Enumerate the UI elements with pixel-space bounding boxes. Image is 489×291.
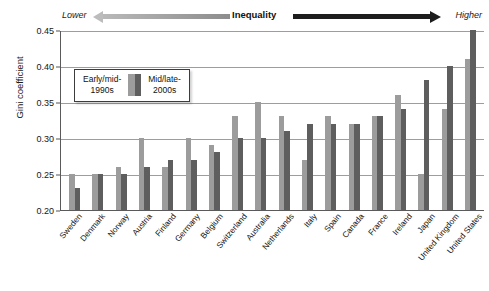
arrow-left-icon xyxy=(102,14,230,19)
x-tick-label: Canada xyxy=(341,212,366,240)
x-tick-label: Austria xyxy=(131,212,154,237)
y-tick-label: 0.45 xyxy=(36,26,54,36)
bar-group xyxy=(412,31,435,210)
bar-group xyxy=(133,31,156,210)
bar-group xyxy=(249,31,272,210)
x-tick-label: Ireland xyxy=(390,212,413,237)
x-tick-label: France xyxy=(367,212,390,237)
x-tick-label: Japan xyxy=(416,212,437,235)
y-tick-label: 0.20 xyxy=(36,206,54,216)
bar xyxy=(191,160,197,210)
bar-groups xyxy=(61,31,484,210)
bar xyxy=(424,80,430,210)
bar-group xyxy=(156,31,179,210)
legend-swatch xyxy=(128,74,141,96)
bar xyxy=(238,138,244,210)
x-tick-label: Spain xyxy=(322,212,342,234)
bar xyxy=(377,116,383,210)
bar xyxy=(284,131,290,210)
bar-group xyxy=(63,31,86,210)
bar xyxy=(470,30,476,210)
bar-group xyxy=(366,31,389,210)
x-tick-label: Norway xyxy=(106,212,131,239)
bar xyxy=(98,174,104,210)
lower-label: Lower xyxy=(62,10,87,20)
gini-coefficient-chart: Lower Inequality Higher Gini coefficient… xyxy=(0,0,489,291)
inequality-label: Inequality xyxy=(232,9,276,20)
plot-area xyxy=(60,31,484,211)
arrow-right-icon xyxy=(293,14,431,19)
y-tick-label: 0.35 xyxy=(36,98,54,108)
bar xyxy=(168,160,174,210)
bar-group xyxy=(203,31,226,210)
bar-group xyxy=(273,31,296,210)
bar-group xyxy=(179,31,202,210)
y-tick-label: 0.30 xyxy=(36,134,54,144)
y-tick-label: 0.40 xyxy=(36,62,54,72)
bar xyxy=(75,188,81,210)
bar-group xyxy=(436,31,459,210)
bar-group xyxy=(296,31,319,210)
x-tick-label: Finland xyxy=(154,212,178,238)
y-axis-title: Gini coefficient xyxy=(14,23,25,153)
bar xyxy=(144,167,150,210)
bar-group xyxy=(319,31,342,210)
y-tick-label: 0.25 xyxy=(36,170,54,180)
bar xyxy=(121,174,127,210)
bar xyxy=(447,66,453,210)
legend-label-early: Early/mid- 1990s xyxy=(83,74,121,95)
legend-swatch-late xyxy=(135,74,142,96)
higher-label: Higher xyxy=(455,10,482,20)
x-axis-tick-labels: SwedenDenmarkNorwayAustriaFinlandGermany… xyxy=(60,212,484,291)
bar xyxy=(307,124,313,210)
bar xyxy=(354,124,360,210)
bar xyxy=(401,109,407,210)
x-tick-label: Italy xyxy=(303,212,320,229)
bar-group xyxy=(389,31,412,210)
legend-label-late: Mid/late- 2000s xyxy=(148,74,181,95)
inequality-direction-band: Lower Inequality Higher xyxy=(62,8,482,26)
bar-group xyxy=(459,31,482,210)
y-axis-tick-labels: 0.450.400.350.300.250.20 xyxy=(28,31,54,211)
bar xyxy=(331,124,337,210)
bar xyxy=(261,138,267,210)
bar xyxy=(214,152,220,210)
legend: Early/mid- 1990s Mid/late- 2000s xyxy=(74,69,190,102)
bar-group xyxy=(110,31,133,210)
bar-group xyxy=(86,31,109,210)
bar-group xyxy=(226,31,249,210)
bar-group xyxy=(342,31,365,210)
